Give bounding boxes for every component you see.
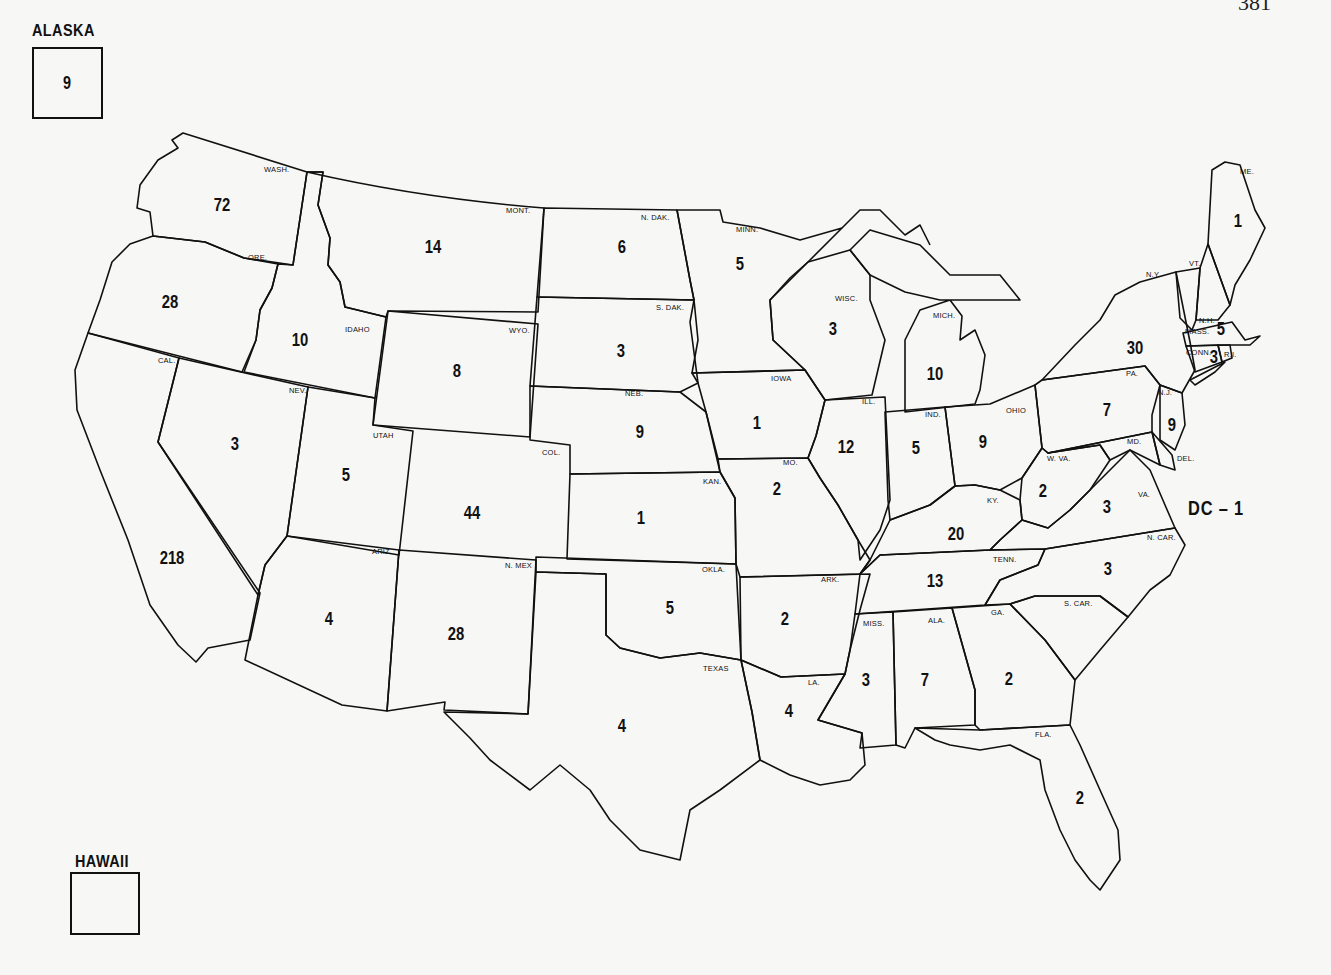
state-abbr-minnesota: MINN.	[736, 226, 758, 234]
state-count-kentucky: 20	[948, 524, 964, 543]
state-count-indiana: 5	[912, 438, 920, 457]
state-count-wyoming: 8	[453, 361, 461, 380]
state-abbr-massachusetts: MASS.	[1185, 328, 1209, 336]
state-abbr-maine: ME.	[1240, 168, 1254, 176]
state-abbr-rhode-island: R.I.	[1224, 351, 1236, 359]
state-abbr-idaho: IDAHO	[345, 326, 370, 334]
state-count-pennsylvania: 7	[1103, 400, 1111, 419]
state-count-connecticut: 3	[1210, 347, 1218, 366]
state-abbr-kansas: KAN.	[703, 478, 721, 486]
state-abbr-georgia: GA.	[991, 609, 1005, 617]
state-abbr-south-carolina: S. CAR.	[1064, 600, 1093, 608]
lake-superior-shore	[842, 210, 930, 245]
state-count-michigan: 10	[927, 364, 943, 383]
state-count-kansas: 1	[637, 508, 645, 527]
state-abbr-oregon: ORE.	[248, 254, 267, 262]
state-abbr-ohio: OHIO	[1006, 407, 1026, 415]
state-count-georgia: 2	[1005, 669, 1013, 688]
state-mississippi	[818, 612, 896, 748]
state-count-south-dakota: 3	[617, 341, 625, 360]
state-abbr-north-dakota: N. DAK.	[641, 214, 670, 222]
state-abbr-new-hampshire: N.H.	[1199, 317, 1215, 325]
state-delaware	[1152, 432, 1175, 470]
dc-count-label: DC – 1	[1188, 497, 1244, 520]
state-count-ohio: 9	[979, 432, 987, 451]
state-abbr-nevada: NEV.	[289, 387, 307, 395]
state-count-iowa: 1	[753, 413, 761, 432]
state-louisiana	[741, 660, 865, 785]
state-florida	[915, 725, 1120, 890]
state-count-west-virginia: 2	[1039, 481, 1047, 500]
state-abbr-california: CAL.	[158, 357, 175, 365]
state-count-montana: 14	[425, 237, 441, 256]
state-minnesota	[677, 210, 842, 373]
state-abbr-indiana: IND.	[925, 411, 941, 419]
state-abbr-maryland: MD.	[1127, 438, 1141, 446]
state-california	[75, 333, 260, 662]
state-abbr-tennessee: TENN.	[993, 556, 1017, 564]
state-alabama	[893, 608, 975, 748]
state-abbr-florida: FLA.	[1035, 731, 1052, 739]
state-michigan	[850, 230, 1020, 412]
state-count-illinois: 12	[838, 437, 854, 456]
state-idaho	[244, 172, 386, 398]
state-abbr-wyoming: WYO.	[509, 327, 530, 335]
state-abbr-montana: MONT.	[506, 207, 530, 215]
state-georgia	[952, 604, 1075, 730]
state-abbr-colorado: COL.	[542, 449, 560, 457]
state-abbr-wisconsin: WISC.	[835, 295, 858, 303]
state-nebraska	[530, 386, 720, 474]
state-count-new-jersey: 9	[1168, 415, 1176, 434]
state-count-idaho: 10	[292, 330, 308, 349]
state-arkansas	[740, 574, 870, 677]
state-ohio	[945, 385, 1042, 490]
state-maine	[1208, 162, 1265, 305]
state-illinois	[808, 397, 890, 560]
state-count-north-carolina: 3	[1104, 559, 1112, 578]
state-count-florida: 2	[1076, 788, 1084, 807]
state-count-maine: 1	[1234, 211, 1242, 230]
state-count-tennessee: 13	[927, 571, 943, 590]
state-count-virginia: 3	[1103, 497, 1111, 516]
state-count-nebraska: 9	[636, 422, 644, 441]
state-count-missouri: 2	[773, 479, 781, 498]
state-abbr-new-york: N.Y.	[1146, 271, 1160, 279]
state-count-arizona: 4	[325, 609, 333, 628]
state-missouri	[718, 458, 870, 577]
state-abbr-illinois: ILL.	[862, 398, 875, 406]
state-abbr-kentucky: KY.	[987, 497, 999, 505]
state-abbr-iowa: IOWA	[771, 375, 792, 383]
state-abbr-mississippi: MISS.	[863, 620, 884, 628]
state-count-mississippi: 3	[862, 670, 870, 689]
state-count-oregon: 28	[162, 292, 178, 311]
state-count-wisconsin: 3	[829, 319, 837, 338]
state-abbr-utah: UTAH	[373, 432, 394, 440]
state-count-washington: 72	[214, 195, 230, 214]
state-count-massachusetts: 5	[1217, 319, 1225, 338]
state-north-dakota	[537, 208, 694, 300]
state-abbr-nebraska: NEB.	[625, 390, 643, 398]
state-abbr-texas: TEXAS	[703, 665, 729, 673]
state-abbr-oklahoma: OKLA.	[702, 566, 725, 574]
state-abbr-alabama: ALA.	[928, 617, 945, 625]
state-count-california: 218	[160, 548, 185, 567]
state-abbr-delaware: DEL.	[1177, 455, 1194, 463]
state-count-arkansas: 2	[781, 609, 789, 628]
state-count-new-york: 30	[1127, 338, 1143, 357]
state-abbr-connecticut: CONN.	[1186, 349, 1211, 357]
state-count-louisiana: 4	[785, 701, 793, 720]
state-abbr-washington: WASH.	[264, 166, 289, 174]
state-south-carolina	[1010, 596, 1128, 680]
state-abbr-virginia: VA.	[1138, 491, 1150, 499]
state-count-north-dakota: 6	[618, 237, 626, 256]
state-abbr-north-carolina: N. CAR.	[1147, 534, 1176, 542]
state-count-alabama: 7	[921, 670, 929, 689]
state-abbr-vermont: VT.	[1189, 260, 1200, 268]
state-abbr-arkansas: ARK.	[821, 576, 839, 584]
us-state-outline-map	[0, 0, 1331, 975]
state-abbr-arizona: ARIZ.	[372, 548, 392, 556]
state-new-york	[1042, 272, 1195, 393]
state-count-nevada: 3	[231, 434, 239, 453]
state-abbr-michigan: MICH.	[933, 312, 955, 320]
state-count-oklahoma: 5	[666, 598, 674, 617]
